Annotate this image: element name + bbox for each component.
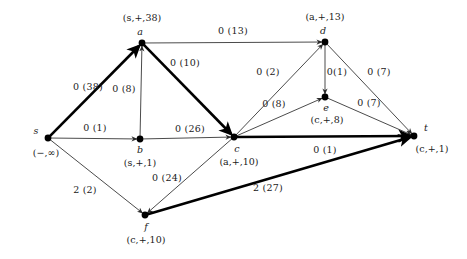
node-label-f: (c,+,10)	[127, 235, 166, 245]
node-name-t: t	[424, 123, 428, 133]
node-name-f: f	[144, 222, 148, 232]
edge-s-b	[49, 138, 136, 139]
node-label-e: (c,+,8)	[311, 115, 344, 125]
flow-network-figure: 0 (38)0 (1)2 (2)0 (8)0 (13)0 (10)0 (26)0…	[0, 0, 467, 259]
edge-label-s-b: 0 (1)	[83, 123, 107, 133]
edge-label-c-f: 0 (24)	[152, 173, 182, 183]
edge-label-c-d: 0 (2)	[256, 67, 280, 77]
node-label-s: (−,∞)	[33, 148, 59, 158]
node-name-a: a	[137, 27, 143, 37]
graph-canvas	[0, 0, 467, 259]
edge-label-d-e: 0(1)	[327, 67, 347, 77]
edge-b-c	[141, 137, 230, 139]
edge-label-d-t: 0 (7)	[367, 67, 391, 77]
node-b	[137, 136, 144, 143]
edge-label-a-c: 0 (10)	[170, 58, 200, 68]
node-e	[322, 94, 329, 101]
node-name-c: c	[234, 144, 239, 154]
edge-label-s-a: 0 (38)	[73, 82, 103, 92]
edge-c-d	[235, 44, 323, 136]
edge-label-c-e: 0 (8)	[262, 99, 286, 109]
edge-label-b-c: 0 (26)	[175, 124, 205, 134]
edge-label-c-t: 0 (1)	[313, 145, 337, 155]
edge-b-a	[140, 46, 142, 137]
node-label-b: (s,+,1)	[124, 158, 156, 168]
node-a	[139, 40, 146, 47]
node-name-e: e	[323, 103, 329, 113]
edge-label-f-t: 2 (27)	[253, 183, 283, 193]
node-name-s: s	[34, 126, 39, 136]
edge-a-d	[143, 42, 321, 43]
node-c	[231, 134, 238, 141]
node-name-b: b	[137, 145, 143, 155]
node-t	[411, 133, 418, 140]
node-f	[142, 212, 149, 219]
edge-label-s-f: 2 (2)	[73, 185, 97, 195]
node-d	[322, 39, 329, 46]
edge-label-b-a: 0 (8)	[112, 84, 136, 94]
edge-label-a-d: 0 (13)	[218, 26, 248, 36]
edge-f-t	[147, 137, 410, 214]
edge-c-t	[236, 136, 410, 137]
node-name-d: d	[320, 26, 326, 36]
node-s	[45, 135, 52, 142]
node-label-d: (a,+,13)	[305, 12, 344, 22]
edge-s-f	[49, 139, 142, 213]
node-label-a: (s,+,38)	[123, 13, 161, 23]
edge-label-e-t: 0 (7)	[357, 98, 381, 108]
node-label-c: (a,+,10)	[219, 157, 258, 167]
node-label-t: (c,+,1)	[416, 144, 449, 154]
